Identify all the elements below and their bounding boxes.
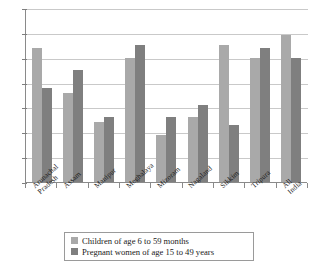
bar (250, 58, 260, 182)
bar (125, 58, 135, 182)
bar-group (120, 9, 151, 182)
bar (281, 35, 291, 182)
legend-item-label: Children of age 6 to 59 months (82, 236, 189, 246)
bar (73, 70, 83, 182)
bar-group (88, 9, 119, 182)
bar-group (213, 9, 244, 182)
bar (260, 48, 270, 182)
light-grey-swatch-icon (71, 237, 78, 244)
legend: Children of age 6 to 59 months Pregnant … (64, 232, 254, 261)
bar-group (245, 9, 276, 182)
bar (188, 117, 198, 182)
bar-group (57, 9, 88, 182)
dark-grey-swatch-icon (71, 248, 78, 255)
bar-group (276, 9, 307, 182)
legend-item: Pregnant women of age 15 to 49 years (71, 246, 249, 257)
bar-group (26, 9, 57, 182)
bar-group (151, 9, 182, 182)
bar (135, 45, 145, 182)
plot-area (25, 9, 307, 183)
bar (219, 45, 229, 182)
legend-item-label: Pregnant women of age 15 to 49 years (82, 247, 214, 257)
bar (291, 58, 301, 182)
x-axis-labels: Arunachal PradeshAssamManipurMeghalayaMi… (25, 184, 307, 232)
legend-item: Children of age 6 to 59 months (71, 235, 249, 246)
x-axis-tick (307, 183, 308, 188)
bar-series-container (26, 9, 307, 182)
bar (63, 93, 73, 182)
grouped-bar-chart: Arunachal PradeshAssamManipurMeghalayaMi… (0, 0, 314, 280)
bar-group (182, 9, 213, 182)
bar (32, 48, 42, 182)
